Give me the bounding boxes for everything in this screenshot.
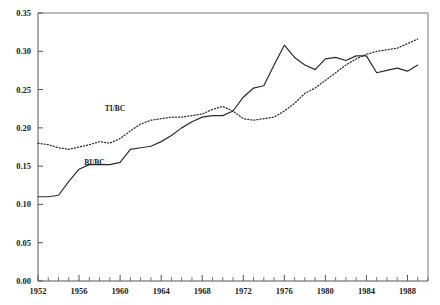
x-tick-label: 1988 — [399, 286, 416, 296]
x-tick-label: 1968 — [194, 286, 211, 296]
line-chart: 0.000.050.100.150.200.250.300.35 1952195… — [0, 0, 440, 305]
y-tick-label: 0.10 — [16, 199, 31, 209]
y-tick-label: 0.25 — [16, 85, 31, 95]
y-tick-label: 0.35 — [16, 8, 31, 18]
x-tick-label: 1976 — [276, 286, 293, 296]
y-axis-ticks: 0.000.050.100.150.200.250.300.35 — [16, 8, 43, 286]
x-tick-label: 1984 — [358, 286, 376, 296]
series-line-bi-bc — [38, 45, 418, 197]
annotation-layer: TI/BCBI/BC — [84, 104, 125, 167]
series-annotation-ti-bc: TI/BC — [105, 104, 125, 113]
y-tick-label: 0.20 — [16, 123, 31, 133]
y-tick-label: 0.15 — [16, 161, 31, 171]
series-layer — [38, 39, 418, 197]
x-axis-ticks: 1952195619601964196819721976198019841988 — [30, 275, 429, 296]
chart-container: 0.000.050.100.150.200.250.300.35 1952195… — [0, 0, 440, 305]
x-tick-label: 1952 — [30, 286, 47, 296]
x-tick-label: 1980 — [317, 286, 334, 296]
y-tick-label: 0.30 — [16, 46, 31, 56]
series-annotation-bi-bc: BI/BC — [84, 158, 104, 167]
y-tick-label: 0.00 — [16, 276, 31, 286]
x-tick-label: 1972 — [235, 286, 252, 296]
x-tick-label: 1964 — [153, 286, 171, 296]
y-tick-label: 0.05 — [16, 238, 31, 248]
x-tick-label: 1956 — [71, 286, 88, 296]
x-tick-label: 1960 — [112, 286, 129, 296]
